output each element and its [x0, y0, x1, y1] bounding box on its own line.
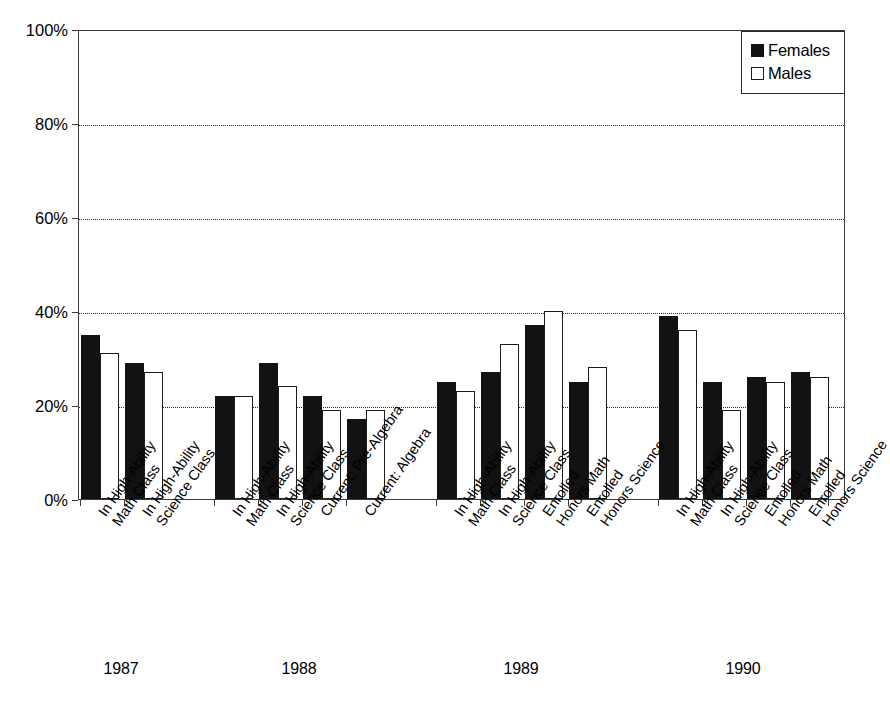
- gridline: [79, 125, 844, 126]
- y-axis-tick-mark: [72, 500, 78, 501]
- bar-females: [437, 382, 456, 500]
- bar-females: [81, 335, 100, 500]
- legend-label-females: Females: [768, 42, 830, 59]
- x-axis-tick-mark: [214, 500, 215, 506]
- x-axis-year-label: 1988: [259, 660, 339, 678]
- legend-item-females: Females: [751, 39, 836, 62]
- bar-females: [659, 316, 678, 499]
- x-axis-year-label: 1987: [81, 660, 161, 678]
- y-axis-tick-label: 0%: [0, 491, 68, 510]
- legend-item-males: Males: [751, 62, 836, 85]
- y-axis-tick-label: 100%: [0, 21, 68, 40]
- bar-males: [100, 353, 119, 499]
- legend-label-males: Males: [768, 65, 811, 82]
- x-axis-tick-mark: [436, 500, 437, 506]
- legend-swatch-females-icon: [751, 44, 764, 57]
- y-axis-tick-label: 20%: [0, 397, 68, 416]
- x-axis-tick-mark: [658, 500, 659, 506]
- y-axis: 0%20%40%60%80%100%: [0, 30, 74, 500]
- bar-females: [215, 396, 234, 499]
- legend: Females Males: [741, 31, 845, 94]
- legend-swatch-males-icon: [751, 67, 764, 80]
- x-axis-tick-mark: [346, 500, 347, 506]
- x-axis-tick-mark: [80, 500, 81, 506]
- bar-males: [678, 330, 697, 499]
- y-axis-tick-label: 60%: [0, 209, 68, 228]
- x-axis-year-label: 1989: [481, 660, 561, 678]
- plot-area: [78, 30, 845, 500]
- x-axis-year-label: 1990: [703, 660, 783, 678]
- gridline: [79, 219, 844, 220]
- gridline: [79, 313, 844, 314]
- y-axis-tick-label: 40%: [0, 303, 68, 322]
- y-axis-tick-label: 80%: [0, 115, 68, 134]
